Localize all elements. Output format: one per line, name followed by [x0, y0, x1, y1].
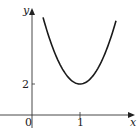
y-axis-label: y — [23, 5, 29, 16]
x-tick-label-1: 1 — [77, 117, 84, 128]
function-graph — [0, 0, 138, 131]
x-axis-label: x — [130, 117, 136, 128]
curve-line — [43, 17, 116, 84]
y-axis-arrow-icon — [29, 8, 35, 15]
origin-label: 0 — [25, 117, 32, 128]
y-tick-label-2: 2 — [22, 79, 29, 90]
